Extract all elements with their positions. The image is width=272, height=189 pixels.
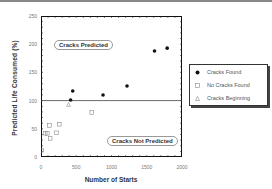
open-square-icon xyxy=(190,83,204,88)
data-point-cracks-found xyxy=(153,49,157,53)
x-axis-label: Number of Starts xyxy=(85,176,138,183)
filled-circle-icon xyxy=(190,70,204,75)
x-tick-label: 1000 xyxy=(106,164,117,170)
data-point-no-cracks-found xyxy=(48,124,52,128)
top-border-line xyxy=(0,0,272,2)
data-point-no-cracks-found xyxy=(58,122,62,126)
data-point-no-cracks-found xyxy=(55,131,59,135)
legend-item-cracks-beginning: Cracks Beginning xyxy=(190,93,250,103)
y-tick-label: 250 xyxy=(29,13,37,19)
x-tick-label: 500 xyxy=(72,164,80,170)
y-axis-label: Predicted Life Consumed (%) xyxy=(11,40,18,136)
data-point-cracks-found xyxy=(125,84,129,88)
cracks-predicted-label: Cracks Predicted xyxy=(54,40,113,50)
x-tick-label: 0 xyxy=(40,164,43,170)
cracks-not-predicted-label: Cracks Not Predicted xyxy=(107,136,178,146)
open-triangle-icon xyxy=(190,96,204,101)
y-tick-label: 0 xyxy=(34,154,37,160)
data-point-no-cracks-found xyxy=(46,132,50,136)
data-point-cracks-found xyxy=(69,98,73,102)
y-tick-label: 50 xyxy=(31,126,37,132)
legend-item-no-cracks-found: No Cracks Found xyxy=(190,80,250,90)
data-point-cracks-found xyxy=(165,46,169,50)
legend: Cracks Found No Cracks Found Cracks Begi… xyxy=(189,64,268,106)
x-tick-label: 2000 xyxy=(176,164,187,170)
legend-item-cracks-found: Cracks Found xyxy=(190,67,241,77)
data-point-no-cracks-found xyxy=(90,111,94,115)
data-point-cracks-found xyxy=(101,93,105,97)
data-point-no-cracks-found xyxy=(43,132,47,136)
data-point-cracks-beginning xyxy=(66,103,70,107)
x-tick-label: 1500 xyxy=(141,164,152,170)
data-point-cracks-found xyxy=(71,89,75,93)
y-tick-label: 100 xyxy=(29,98,37,104)
data-point-no-cracks-found xyxy=(48,137,52,141)
y-tick-label: 200 xyxy=(29,41,37,47)
y-tick-label: 150 xyxy=(29,69,37,75)
